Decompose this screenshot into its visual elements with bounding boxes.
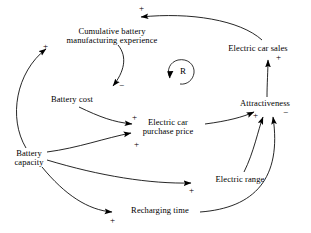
reinforcing-loop-arrowhead xyxy=(167,71,173,79)
sign-battery-capacity-to-recharging-time: + xyxy=(110,216,115,225)
link-attractiveness-to-sales xyxy=(267,60,268,97)
node-label-line2: manufacturing experience xyxy=(56,36,168,45)
node-cumulative-battery-manufacturing-experience[interactable]: Cumulative battery manufacturing experie… xyxy=(56,27,168,46)
sign-sales-to-experience: + xyxy=(139,4,144,13)
node-label-line2: purchase price xyxy=(133,127,203,136)
node-battery-capacity[interactable]: Battery capacity xyxy=(2,149,56,168)
node-attractiveness[interactable]: Attractiveness xyxy=(228,99,302,109)
sign-battery-cost-to-purchase-price: + xyxy=(132,113,137,122)
causal-loop-diagram: Cumulative battery manufacturing experie… xyxy=(0,0,311,233)
sign-experience-to-battery-cost: − xyxy=(119,81,124,90)
node-recharging-time[interactable]: Recharging time xyxy=(120,206,200,216)
link-electric-range-to-attractiveness xyxy=(244,117,263,172)
node-battery-cost[interactable]: Battery cost xyxy=(40,95,104,105)
sign-battery-capacity-to-experience: + xyxy=(43,42,48,51)
sign-battery-capacity-to-electric-range: + xyxy=(189,186,194,195)
link-battery-capacity-to-electric-range xyxy=(47,160,191,183)
sign-battery-capacity-to-purchase-price: + xyxy=(134,140,139,149)
node-electric-car-sales[interactable]: Electric car sales xyxy=(218,44,298,54)
link-battery-cost-to-purchase-price xyxy=(79,107,132,124)
reinforcing-loop-label: R xyxy=(180,66,186,76)
sign-attractiveness-to-sales: + xyxy=(276,53,281,62)
link-battery-capacity-to-purchase-price xyxy=(47,133,131,152)
link-recharging-time-to-attractiveness xyxy=(200,117,275,212)
sign-purchase-price-to-attractiveness: + xyxy=(253,111,258,120)
sign-recharging-time-to-attractiveness: − xyxy=(283,108,288,117)
node-electric-car-purchase-price[interactable]: Electric car purchase price xyxy=(133,118,203,137)
node-label-line2: capacity xyxy=(2,158,56,167)
link-purchase-price-to-attractiveness xyxy=(205,112,254,124)
node-electric-range[interactable]: Electric range xyxy=(205,175,275,185)
